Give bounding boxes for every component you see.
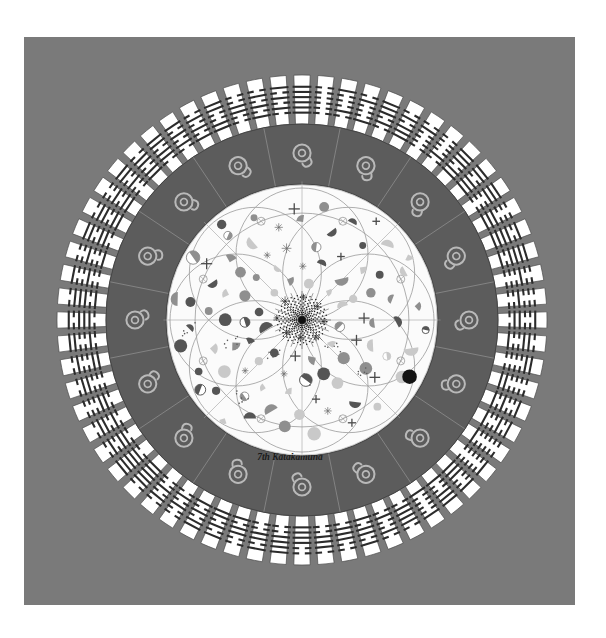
- hexagram-line-broken: [261, 100, 267, 101]
- rosette-dot: [317, 312, 318, 313]
- rosette-dot: [314, 338, 315, 339]
- hexagram-line-broken: [516, 353, 517, 359]
- filled-circle-symbol: [294, 409, 305, 420]
- hexagram-line-broken: [337, 94, 343, 95]
- micro-dot: [309, 384, 311, 386]
- hexagram-line-broken: [513, 344, 514, 351]
- rosette-dot: [316, 322, 317, 323]
- filled-circle-symbol: [212, 387, 220, 395]
- filled-circle-symbol: [255, 308, 264, 317]
- rosette-dot: [306, 322, 307, 323]
- rosette-dot: [306, 326, 307, 327]
- rosette-dot: [279, 330, 280, 331]
- rosette-dot: [308, 329, 309, 330]
- rosette-dot: [303, 338, 304, 339]
- hexagram-line-broken: [70, 288, 71, 295]
- rosette-dot: [300, 336, 301, 337]
- rosette-dot: [298, 324, 299, 325]
- hexagram-line-broken: [526, 278, 527, 284]
- micro-dot: [271, 353, 273, 355]
- rosette-dot: [297, 295, 298, 296]
- rosette-dot: [279, 315, 280, 316]
- hexagram-line-broken: [504, 270, 505, 276]
- micro-dot: [307, 375, 309, 377]
- rosette-dot: [319, 331, 320, 332]
- hexagram-line-broken: [85, 344, 86, 351]
- rosette-dot: [316, 314, 317, 315]
- hexagram-line-broken: [248, 542, 254, 543]
- micro-dot: [272, 356, 274, 358]
- rosette-dot: [309, 325, 310, 326]
- rosette-dot: [310, 332, 311, 333]
- rosette-dot: [290, 309, 291, 310]
- outer-ring-segment: [498, 312, 547, 328]
- rosette-dot: [289, 300, 290, 301]
- hexagram-line-broken: [326, 531, 333, 532]
- rosette-dot: [310, 338, 311, 339]
- rosette-dot: [290, 320, 291, 321]
- micro-dot: [238, 402, 240, 404]
- hexagram-line-broken: [99, 270, 100, 276]
- micro-dot: [241, 401, 243, 403]
- rosette-dot: [309, 341, 310, 342]
- rosette-dot: [325, 327, 326, 328]
- hexagram-line-broken: [84, 267, 85, 273]
- hexagram-line-broken: [71, 356, 72, 362]
- rosette-dot: [303, 298, 304, 299]
- rosette-dot: [282, 321, 283, 322]
- filled-circle-symbol: [270, 349, 279, 358]
- rosette-dot: [307, 311, 308, 312]
- micro-dot: [191, 325, 193, 327]
- hexagram-line-broken: [271, 103, 278, 104]
- hexagram-line-broken: [326, 103, 333, 104]
- rosette-dot: [288, 318, 289, 319]
- filled-circle-symbol: [218, 365, 231, 378]
- hexagram-line-broken: [335, 105, 341, 106]
- rosette-dot: [295, 333, 296, 334]
- outer-ring-segment: [294, 516, 310, 565]
- rosette-dot: [277, 318, 278, 319]
- rosette-dot: [290, 317, 291, 318]
- rosette-dot: [297, 313, 298, 314]
- hexagram-line-broken: [251, 112, 257, 113]
- star-mark: [281, 370, 288, 377]
- hexagram-line-broken: [82, 354, 83, 360]
- filled-circle-symbol: [251, 214, 258, 221]
- hexagram-line-broken: [92, 281, 93, 287]
- hexagram-line-broken: [511, 352, 512, 358]
- rosette-dot: [284, 323, 285, 324]
- rosette-dot: [316, 302, 317, 303]
- outer-ring-segment: [294, 75, 310, 124]
- hexagram-line-broken: [338, 549, 344, 550]
- rosette-dot: [308, 306, 309, 307]
- hexagram-line-broken: [511, 281, 512, 287]
- filled-circle-symbol: [195, 368, 203, 376]
- hexagram-line-broken: [74, 368, 75, 374]
- rosette-dot: [304, 332, 305, 333]
- rosette-dot: [312, 335, 313, 336]
- rosette-dot: [296, 327, 297, 328]
- rosette-dot: [326, 315, 327, 316]
- hexagram-line-broken: [325, 114, 332, 115]
- rosette-dot: [292, 300, 293, 301]
- rosette-dot: [304, 315, 305, 316]
- micro-dot: [366, 373, 368, 375]
- hexagram-line-broken: [507, 290, 508, 297]
- rosette-dot: [318, 320, 319, 321]
- rosette-dot: [320, 323, 321, 324]
- caption-label: 7th Katakamuna: [257, 452, 323, 462]
- rosette-dot: [312, 341, 313, 342]
- rosette-core: [299, 317, 306, 324]
- hexagram-line-broken: [345, 522, 351, 523]
- rosette-dot: [283, 316, 284, 317]
- rosette-dot: [323, 312, 324, 313]
- rosette-dot: [289, 334, 290, 335]
- rosette-dot: [321, 326, 322, 327]
- rosette-dot: [315, 329, 316, 330]
- rosette-dot: [308, 315, 309, 316]
- rosette-dot: [283, 325, 284, 326]
- rosette-dot: [314, 317, 315, 318]
- hexagram-line-broken: [509, 269, 510, 275]
- filled-circle-symbol: [217, 220, 226, 229]
- rosette-dot: [300, 333, 301, 334]
